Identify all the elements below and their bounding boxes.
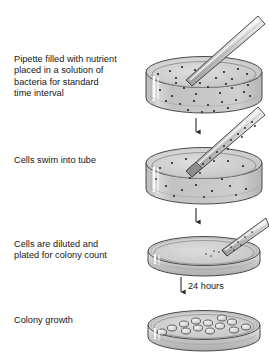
- bacteria-dots-body-1: [153, 82, 251, 113]
- dish-glare-2: [151, 166, 158, 193]
- pipette-dispensing-3: [222, 218, 269, 256]
- step-3-caption: Cells are diluted and plated for colony …: [14, 239, 146, 262]
- dish-bottom-edge-2: [150, 187, 258, 197]
- plate-agar-3: [154, 241, 254, 265]
- dish-liquid-surface-1: [152, 62, 256, 88]
- dish-body-2: [146, 163, 262, 204]
- step-4-illustration: [148, 311, 260, 352]
- step-4-caption: Colony growth: [14, 315, 146, 326]
- dish-bottom-edge-1: [150, 96, 258, 106]
- dish-glare-1: [151, 75, 158, 102]
- figure-root: Pipette filled with nutrient placed in a…: [0, 0, 269, 360]
- dish-liquid-surface-2: [152, 153, 256, 179]
- plate-lip-3: [151, 238, 257, 264]
- step-2-illustration: [146, 107, 265, 204]
- plate-rim-3: [148, 237, 260, 266]
- plate-lip-4: [151, 312, 257, 338]
- diluted-cells-3: [205, 249, 224, 257]
- plate-glare-3: [155, 254, 159, 265]
- dish-rim-1: [146, 57, 262, 88]
- step-2-caption: Cells swim into tube: [14, 155, 146, 166]
- cells-inside-pipette-2: [195, 121, 256, 174]
- step-1-illustration: [146, 16, 265, 113]
- plate-rim-4: [148, 311, 260, 340]
- plate-glare-4: [155, 328, 159, 340]
- plate-wall-4: [148, 325, 260, 351]
- plate-bottom-edge-4: [152, 335, 256, 344]
- bacteria-dots-surface-2: [159, 158, 244, 169]
- colonies-4: [157, 315, 250, 335]
- plate-bottom-edge-3: [152, 260, 256, 269]
- pipette-tip-2: [186, 162, 202, 177]
- pipette-empty-1: [186, 16, 265, 86]
- cells-inside-pipette-3: [230, 231, 253, 251]
- incubation-time-label: 24 hours: [188, 281, 224, 292]
- bacteria-dots-surface-1: [157, 65, 248, 81]
- bacteria-dots-body-2: [155, 177, 247, 198]
- plate-wall-3: [148, 251, 260, 276]
- pipette-with-cells-2: [186, 107, 265, 177]
- plate-agar-4: [154, 315, 254, 339]
- dish-rim-2: [146, 148, 262, 179]
- step-3-illustration: [148, 218, 269, 276]
- dish-body-1: [146, 72, 262, 113]
- step-1-caption: Pipette filled with nutrient placed in a…: [14, 54, 146, 100]
